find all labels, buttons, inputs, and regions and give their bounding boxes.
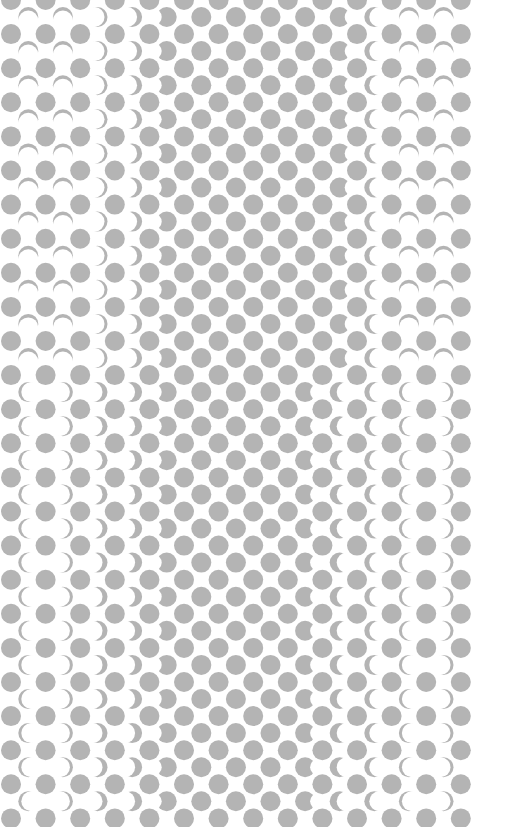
crescent-dot — [295, 382, 315, 402]
full-dot — [139, 502, 159, 522]
full-dot — [243, 604, 263, 624]
offset-dot — [191, 212, 211, 232]
full-dot — [416, 0, 436, 10]
full-dot — [382, 331, 402, 351]
full-dot — [1, 263, 21, 283]
full-dot — [243, 536, 263, 556]
crescent-dot — [18, 41, 38, 61]
offset-dot — [191, 553, 211, 573]
full-dot — [312, 706, 332, 726]
crescent-dot — [53, 757, 73, 777]
crescent-dot — [434, 519, 454, 539]
full-dot — [382, 58, 402, 78]
crescent-dot — [434, 416, 454, 436]
crescent-dot — [330, 7, 350, 27]
crescent-dot — [364, 382, 384, 402]
full-dot — [105, 229, 125, 249]
crescent-dot — [53, 75, 73, 95]
offset-dot — [226, 416, 246, 436]
full-dot — [1, 0, 21, 10]
crescent-dot — [364, 621, 384, 641]
full-dot — [174, 24, 194, 44]
crescent-dot — [295, 757, 315, 777]
full-dot — [209, 229, 229, 249]
full-dot — [1, 399, 21, 419]
full-dot — [139, 604, 159, 624]
crescent-dot — [399, 314, 419, 334]
crescent-dot — [122, 143, 142, 163]
full-dot — [174, 740, 194, 760]
full-dot — [174, 331, 194, 351]
full-dot — [451, 58, 471, 78]
crescent-dot — [122, 655, 142, 675]
crescent-dot — [295, 689, 315, 709]
crescent-dot — [434, 382, 454, 402]
crescent-dot — [295, 484, 315, 504]
crescent-dot — [364, 41, 384, 61]
crescent-dot — [18, 484, 38, 504]
full-dot — [347, 706, 367, 726]
crescent-dot — [330, 41, 350, 61]
offset-dot — [261, 621, 281, 641]
full-dot — [382, 24, 402, 44]
offset-dot — [191, 382, 211, 402]
crescent-dot — [88, 7, 108, 27]
full-dot — [36, 433, 56, 453]
offset-dot — [261, 280, 281, 300]
offset-dot — [261, 689, 281, 709]
full-dot — [312, 24, 332, 44]
full-dot — [36, 604, 56, 624]
offset-dot — [261, 553, 281, 573]
full-dot — [347, 740, 367, 760]
crescent-dot — [364, 280, 384, 300]
full-dot — [416, 502, 436, 522]
full-dot — [243, 126, 263, 146]
offset-dot — [226, 519, 246, 539]
crescent-dot — [122, 212, 142, 232]
full-dot — [70, 399, 90, 419]
full-dot — [382, 0, 402, 10]
full-dot — [174, 774, 194, 794]
full-dot — [451, 433, 471, 453]
crescent-dot — [88, 587, 108, 607]
offset-dot — [261, 7, 281, 27]
full-dot — [416, 604, 436, 624]
crescent-dot — [122, 484, 142, 504]
dot-illusion-canvas — [0, 0, 530, 827]
full-dot — [416, 297, 436, 317]
offset-dot — [191, 109, 211, 129]
full-dot — [70, 365, 90, 385]
crescent-dot — [122, 109, 142, 129]
full-dot — [36, 808, 56, 827]
offset-dot — [261, 75, 281, 95]
full-dot — [347, 58, 367, 78]
full-dot — [347, 161, 367, 181]
offset-dot — [191, 348, 211, 368]
full-dot — [451, 672, 471, 692]
full-dot — [382, 467, 402, 487]
crescent-dot — [157, 484, 177, 504]
full-dot — [382, 365, 402, 385]
offset-dot — [191, 246, 211, 266]
full-dot — [347, 638, 367, 658]
crescent-dot — [399, 143, 419, 163]
offset-dot — [295, 109, 315, 129]
crescent-dot — [364, 7, 384, 27]
full-dot — [243, 263, 263, 283]
crescent-dot — [157, 723, 177, 743]
full-dot — [278, 161, 298, 181]
full-dot — [243, 229, 263, 249]
full-dot — [416, 808, 436, 827]
crescent-dot — [295, 553, 315, 573]
crescent-dot — [295, 416, 315, 436]
full-dot — [347, 502, 367, 522]
crescent-dot — [330, 382, 350, 402]
crescent-dot — [122, 519, 142, 539]
crescent-dot — [434, 791, 454, 811]
full-dot — [70, 774, 90, 794]
full-dot — [139, 467, 159, 487]
offset-dot — [295, 314, 315, 334]
crescent-dot — [53, 484, 73, 504]
full-dot — [312, 0, 332, 10]
full-dot — [139, 433, 159, 453]
